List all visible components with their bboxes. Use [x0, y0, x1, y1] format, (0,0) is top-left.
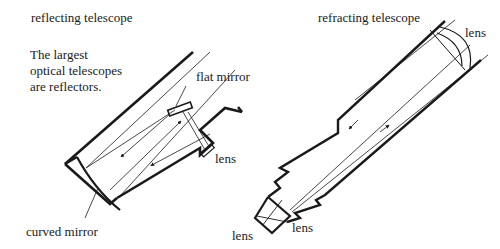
eyepiece-lens-label-right: lens [292, 220, 313, 235]
refracting-telescope-title: refracting telescope [318, 10, 420, 25]
curved-mirror-pointer [85, 188, 98, 218]
eyepiece-housing [255, 197, 290, 233]
reflector-note-line-2: optical telescopes [30, 63, 122, 78]
reflector-note-line-3: are reflectors. [30, 79, 101, 94]
refracting-telescope [255, 20, 488, 233]
reflector-lens-label: lens [215, 151, 236, 166]
eyepiece-lens-label-left: lens [232, 228, 253, 243]
flat-mirror-label: flat mirror [196, 69, 250, 84]
objective-lens-label: lens [465, 25, 486, 40]
curved-mirror-label: curved mirror [26, 224, 98, 239]
reflector-note-line-1: The largest [30, 47, 88, 62]
reflecting-telescope-title: reflecting telescope [31, 10, 132, 25]
flat-mirror [168, 102, 193, 116]
reflector-tube-lower-end [65, 164, 117, 204]
flat-mirror-pointer [176, 86, 186, 106]
refractor-tube-upper-wall [268, 21, 445, 197]
telescope-diagram [0, 0, 500, 249]
